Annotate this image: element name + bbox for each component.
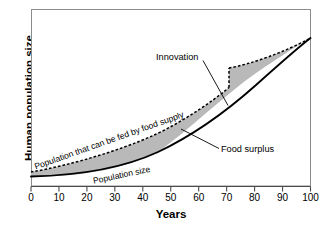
x-tick-label-100: 100 bbox=[296, 192, 325, 203]
x-axis-title: Years bbox=[31, 208, 311, 220]
innovation-annotation-label: Innovation bbox=[156, 52, 198, 62]
x-axis-ticks bbox=[31, 187, 311, 192]
x-tick-label-60: 60 bbox=[184, 192, 214, 203]
x-tick-label-70: 70 bbox=[212, 192, 242, 203]
x-tick-label-90: 90 bbox=[268, 192, 298, 203]
x-tick-label-30: 30 bbox=[100, 192, 130, 203]
x-tick-label-10: 10 bbox=[44, 192, 74, 203]
x-tick-label-0: 0 bbox=[16, 192, 46, 203]
x-tick-label-40: 40 bbox=[128, 192, 158, 203]
x-tick-label-80: 80 bbox=[240, 192, 270, 203]
x-tick-label-20: 20 bbox=[72, 192, 102, 203]
x-tick-label-50: 50 bbox=[156, 192, 186, 203]
plot-frame bbox=[32, 10, 311, 187]
food-surplus-annotation-label: Food surplus bbox=[221, 144, 274, 154]
chart-figure: Human population size bbox=[0, 0, 325, 231]
